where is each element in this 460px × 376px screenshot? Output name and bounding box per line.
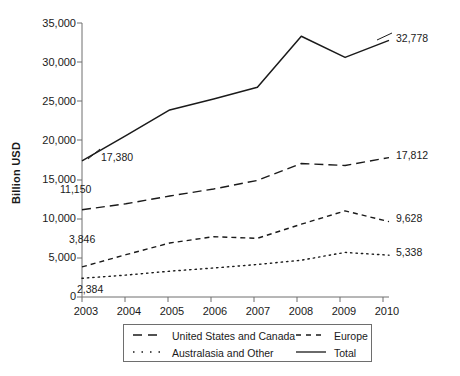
series-line-united-states-and-canada: [82, 158, 389, 210]
legend-label-europe: Europe: [334, 331, 368, 342]
series-line-europe: [82, 211, 389, 267]
legend-swatch-united-states-and-canada: [131, 330, 165, 340]
series-line-australasia-and-other: [82, 252, 389, 278]
legend-swatch-europe: [294, 330, 328, 340]
legend-swatch-australasia-and-other: [131, 347, 165, 357]
data-label-total-start: 17,380: [101, 152, 133, 163]
legend-label-total: Total: [334, 348, 356, 359]
legend-swatch-total: [294, 347, 328, 357]
series-line-total: [82, 36, 389, 161]
label-leader-lines: [88, 33, 392, 159]
data-label-usca-end: 17,812: [396, 150, 428, 161]
chart-figure: Billion USD 35,000 30,000 25,000 20,000 …: [0, 0, 460, 376]
data-label-australasia-end: 5,338: [396, 247, 422, 258]
chart-legend: United States and Canada Europe Australa…: [123, 324, 372, 362]
data-label-usca-start: 11,150: [60, 184, 91, 195]
data-label-total-end: 32,778: [396, 33, 428, 44]
data-label-europe-start: 3,846: [69, 234, 95, 245]
legend-label-australasia-and-other: Australasia and Other: [172, 348, 274, 359]
data-label-australasia-start: 2,384: [77, 284, 103, 295]
data-label-europe-end: 9,628: [396, 213, 422, 224]
legend-label-united-states-and-canada: United States and Canada: [172, 331, 295, 342]
